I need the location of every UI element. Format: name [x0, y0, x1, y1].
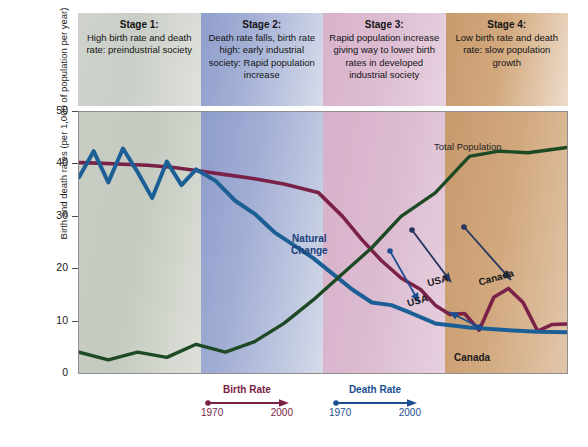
legend-birth-rate-arrow: [197, 395, 297, 407]
legend-death-rate-label: Death Rate: [325, 384, 425, 395]
stage-4-description: Low birth rate and death rate: slow popu…: [450, 32, 565, 69]
y-tick-label-40: 40: [48, 156, 68, 168]
stage-2-title: Stage 2:: [205, 19, 320, 31]
y-tick-label-0: 0: [48, 366, 68, 378]
y-tick-label-10: 10: [48, 314, 68, 326]
legend-birth-rate-label: Birth Rate: [197, 384, 297, 395]
stage-header-3: Stage 3: Rapid population increase givin…: [323, 13, 446, 106]
stage-header-4: Stage 4: Low birth rate and death rate: …: [446, 13, 569, 106]
stage-4-title: Stage 4:: [450, 19, 565, 31]
natural-change-line-2: Change: [291, 245, 328, 256]
legend-death-year-end: 2000: [399, 407, 421, 418]
stage-header-1: Stage 1: High birth rate and death rate:…: [78, 13, 201, 106]
legend-birth-year-start: 1970: [201, 407, 223, 418]
y-tick-label-30: 30: [48, 209, 68, 221]
legend-death-year-start: 1970: [329, 407, 351, 418]
legend-death-rate-arrow: [325, 395, 425, 407]
y-tick-label-20: 20: [48, 261, 68, 273]
annotation-leader-usa-death: [387, 248, 419, 302]
stage-3-description: Rapid population increase giving way to …: [327, 32, 442, 81]
stage-1-description: High birth rate and death rate: preindus…: [82, 32, 197, 56]
legend-death-rate: Death Rate 1970 2000: [325, 384, 425, 418]
natural-change-line-1: Natural: [292, 233, 326, 244]
chart-plot-area: Total Population Natural Change USA USA …: [78, 111, 568, 374]
stage-header-band: Stage 1: High birth rate and death rate:…: [78, 13, 568, 106]
total-population-label: Total Population: [434, 141, 502, 152]
stage-3-title: Stage 3:: [327, 19, 442, 31]
legend-birth-rate: Birth Rate 1970 2000: [197, 384, 297, 418]
y-tick-label-50: 50: [48, 104, 68, 116]
natural-change-label: Natural Change: [291, 233, 328, 257]
stage-header-2: Stage 2: Death rate falls, birth rate hi…: [201, 13, 324, 106]
canada-death-rate-label: Canada: [454, 352, 490, 363]
stage-2-description: Death rate falls, birth rate high: early…: [205, 32, 320, 81]
legend-birth-year-end: 2000: [271, 407, 293, 418]
stage-1-title: Stage 1:: [82, 19, 197, 31]
